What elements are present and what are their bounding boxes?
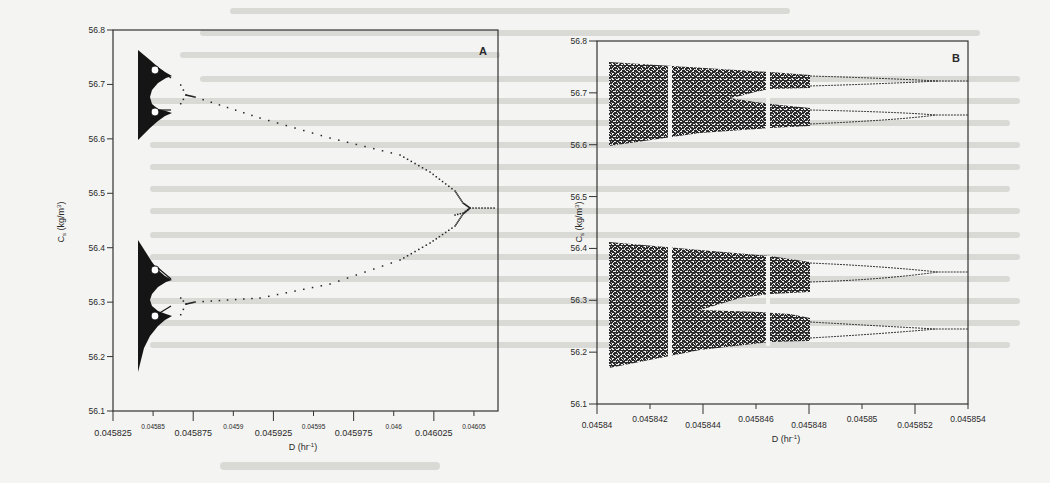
x-tick-label: 0.04584 [582,420,613,430]
chaotic-region-b [609,62,810,368]
y-tick-label: 56.2 [570,347,587,357]
x-axis-label-b: D (hr-1) [772,434,800,444]
y-tick-label: 56.8 [570,36,587,46]
x-tick-label: 0.045842 [632,414,668,424]
x-tick-label: 0.045846 [738,414,774,424]
y-axis-label-b: Cs (kg/m3) [574,202,585,243]
x-axis-ticks-b: 0.045840.0458420.0458440.0458460.0458480… [582,404,986,430]
y-tick-label: 56.5 [570,192,587,202]
chart-panel-b: B 56.856.756.656.556.456.356.256.1 0.045… [0,0,1050,483]
x-tick-label: 0.04585 [847,414,878,424]
bifurcation-branches-b [810,76,968,338]
x-tick-label: 0.045844 [685,420,721,430]
x-tick-label: 0.045848 [791,420,827,430]
x-tick-label: 0.045854 [950,414,986,424]
x-tick-label: 0.045852 [897,420,933,430]
y-tick-label: 56.3 [570,295,587,305]
panel-label-b: B [952,52,960,64]
y-tick-label: 56.4 [570,243,587,253]
y-tick-label: 56.7 [570,88,587,98]
y-tick-label: 56.6 [570,140,587,150]
y-tick-label: 56.1 [570,399,587,409]
